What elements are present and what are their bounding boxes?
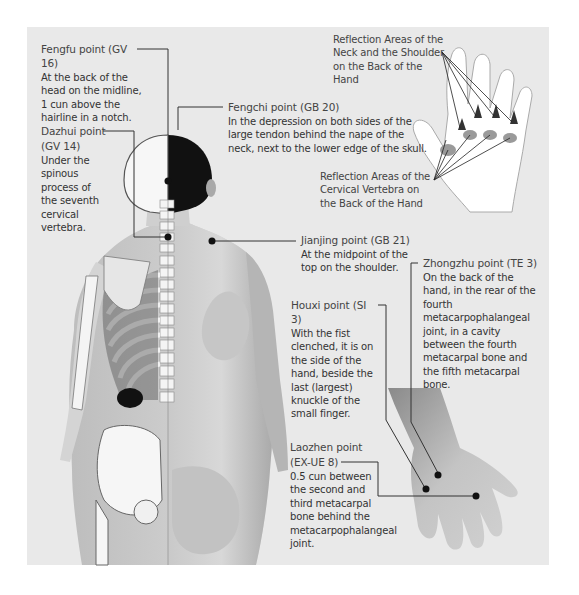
jianjing-desc: At the midpoint of the top on the should…	[301, 249, 408, 273]
dazhui-desc: Under the spinous process of the seventh…	[41, 155, 99, 233]
fengchi-desc: In the depression on both sides of the l…	[228, 116, 427, 154]
fengfu-label: Fengfu point (GV 16) At the back of the …	[41, 42, 145, 125]
dazhui-title-2: (GV 14)	[41, 139, 107, 153]
houxi-desc: With the fist clenched, it is on the sid…	[291, 328, 373, 419]
hand-illustration	[388, 388, 518, 550]
fengchi-title: Fengchi point (GB 20)	[228, 100, 428, 114]
reflection-cervical-text: Reflection Areas of the Cervical Vertebr…	[320, 171, 430, 209]
zhongzhu-marker	[435, 472, 442, 479]
reflection-cervical-label: Reflection Areas of the Cervical Vertebr…	[320, 170, 432, 210]
reflection-neck-text: Reflection Areas of the Neck and the Sho…	[333, 34, 444, 85]
reflection-neck-label: Reflection Areas of the Neck and the Sho…	[333, 33, 445, 87]
laozhen-desc: 0.5 cun between the second and third met…	[290, 471, 397, 549]
fengchi-label: Fengchi point (GB 20) In the depression …	[228, 100, 428, 155]
jianjing-title: Jianjing point (GB 21)	[301, 233, 411, 247]
dazhui-title-1: Dazhui point	[41, 124, 107, 138]
dazhui-label: Dazhui point (GV 14) Under the spinous p…	[41, 124, 107, 234]
fengfu-desc: At the back of the head on the midline, …	[41, 72, 141, 123]
jianjing-marker	[209, 238, 216, 245]
laozhen-label: Laozhen point (EX-UE 8) 0.5 cun between …	[290, 440, 382, 550]
dazhui-marker	[165, 234, 172, 241]
houxi-title: Houxi point (SI 3)	[291, 298, 377, 326]
laozhen-marker	[473, 493, 480, 500]
zhongzhu-title: Zhongzhu point (TE 3)	[423, 256, 539, 270]
laozhen-title-2: (EX-UE 8)	[290, 455, 382, 469]
jianjing-label: Jianjing point (GB 21) At the midpoint o…	[301, 233, 411, 275]
fengfu-marker	[165, 178, 172, 185]
houxi-label: Houxi point (SI 3) With the fist clenche…	[291, 298, 377, 421]
houxi-marker	[423, 486, 430, 493]
laozhen-title-1: Laozhen point	[290, 440, 382, 454]
zhongzhu-label: Zhongzhu point (TE 3) On the back of the…	[423, 256, 539, 392]
fengfu-title: Fengfu point (GV 16)	[41, 42, 145, 70]
zhongzhu-desc: On the back of the hand, in the rear of …	[423, 272, 535, 390]
